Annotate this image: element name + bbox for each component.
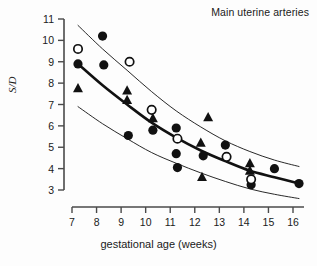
lower-reference-curve	[78, 107, 299, 199]
data-point-open-circle	[74, 45, 82, 53]
data-point-filled-circle	[99, 60, 108, 69]
y-tick-label: 9	[30, 56, 54, 68]
x-tick-label: 8	[94, 216, 100, 228]
data-point-filled-triangle	[122, 85, 132, 94]
chart-container: Main uterine arteries S/D gestational ag…	[0, 0, 317, 266]
data-point-filled-circle	[148, 126, 157, 135]
x-tick-label: 9	[118, 216, 124, 228]
data-point-filled-circle	[173, 163, 182, 172]
data-point-filled-triangle	[197, 172, 207, 181]
data-point-filled-circle	[124, 131, 133, 140]
data-point-open-circle	[247, 175, 255, 183]
y-tick-label: 8	[30, 77, 54, 89]
x-axis	[72, 207, 304, 213]
data-point-open-circle	[222, 153, 230, 161]
x-tick-label: 7	[69, 216, 75, 228]
data-point-filled-circle	[199, 151, 208, 160]
y-tick-label: 4	[30, 163, 54, 175]
data-point-filled-triangle	[73, 83, 83, 92]
y-axis	[58, 19, 64, 190]
data-point-filled-triangle	[196, 138, 206, 147]
x-tick-label: 13	[213, 216, 225, 228]
data-point-filled-triangle	[122, 95, 132, 104]
x-tick-label: 15	[263, 216, 275, 228]
x-axis-label: gestational age (weeks)	[0, 238, 317, 250]
y-tick-label: 5	[30, 141, 54, 153]
y-axis-label: S/D	[6, 77, 18, 94]
y-tick-label: 11	[30, 13, 54, 25]
y-tick-label: 10	[30, 34, 54, 46]
x-tick-label: 14	[238, 216, 250, 228]
data-point-filled-triangle	[148, 113, 158, 122]
data-point-filled-circle	[98, 31, 107, 40]
y-tick-label: 7	[30, 99, 54, 111]
y-tick-label: 3	[30, 184, 54, 196]
data-point-filled-triangle	[203, 112, 213, 121]
data-point-filled-circle	[172, 123, 181, 132]
median-curve	[78, 64, 299, 184]
data-point-open-circle	[173, 135, 181, 143]
data-point-filled-circle	[270, 164, 279, 173]
x-tick-label: 10	[140, 216, 152, 228]
x-tick-label: 16	[287, 216, 299, 228]
data-point-open-circle	[147, 106, 155, 114]
chart-title: Main uterine arteries	[211, 6, 309, 18]
data-point-filled-circle	[73, 59, 82, 68]
reference-curves	[78, 25, 299, 198]
y-tick-label: 6	[30, 120, 54, 132]
data-point-filled-circle	[221, 141, 230, 150]
data-points	[73, 31, 304, 189]
data-point-open-circle	[125, 58, 133, 66]
data-point-filled-circle	[294, 179, 303, 188]
x-tick-label: 11	[165, 216, 176, 228]
data-point-filled-circle	[172, 149, 181, 158]
x-tick-label: 12	[189, 216, 201, 228]
